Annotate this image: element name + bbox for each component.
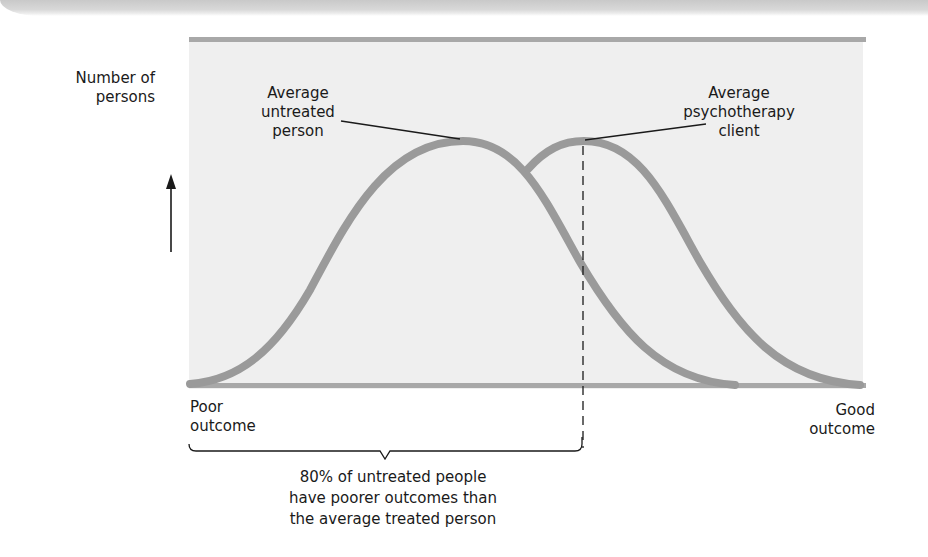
poor-outcome-label: Poor outcome: [190, 398, 280, 436]
percentage-bracket: [189, 437, 582, 459]
y-axis-label: Number of persons: [55, 69, 155, 107]
treated-peak-label: Average psychotherapy client: [664, 84, 814, 141]
up-arrow-icon: [166, 174, 176, 189]
plot-top-border: [189, 37, 866, 42]
bracket-caption: 80% of untreated people have poorer outc…: [243, 467, 543, 530]
untreated-peak-label: Average untreated person: [245, 84, 351, 141]
good-outcome-label: Good outcome: [785, 401, 875, 439]
plot-baseline: [189, 383, 866, 388]
untreated-leader-line: [341, 121, 460, 139]
